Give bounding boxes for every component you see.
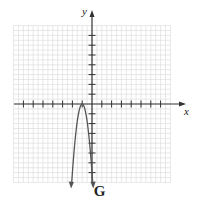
y-axis-label: y xyxy=(81,5,87,17)
axes xyxy=(14,10,186,183)
figure-label: G xyxy=(0,183,199,200)
graph: x y xyxy=(0,0,199,204)
y-axis-arrow-icon xyxy=(90,10,95,17)
x-axis-label: x xyxy=(183,105,189,117)
